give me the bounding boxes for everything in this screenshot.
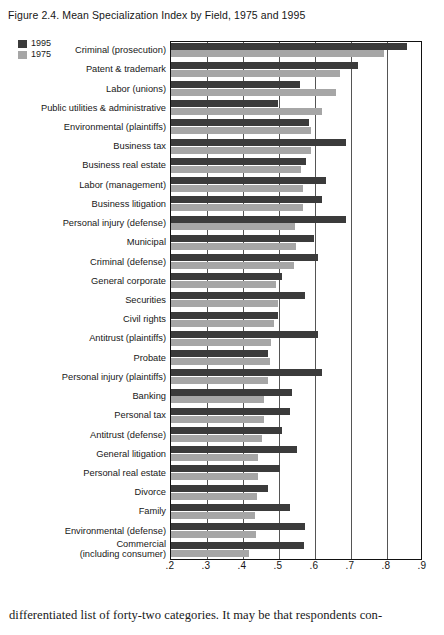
bar-1995 — [171, 446, 297, 453]
x-tick-label: .3 — [202, 560, 211, 571]
chart-row: General corporate — [0, 272, 444, 291]
body-text-paragraph: differentiated list of forty-two categor… — [9, 608, 437, 623]
x-tick-label: .9 — [418, 560, 427, 571]
chart-row: Civil rights — [0, 310, 444, 329]
chart-row: Commercial(including consumer) — [0, 541, 444, 560]
chart-row: Public utilities & administrative — [0, 99, 444, 118]
bar-1995 — [171, 369, 322, 376]
bar-1995 — [171, 196, 322, 203]
category-label: Personal tax — [0, 410, 166, 420]
category-label: Antitrust (plaintiffs) — [0, 333, 166, 343]
bar-1975 — [171, 320, 274, 327]
category-label: Probate — [0, 353, 166, 363]
x-tick-label: .6 — [310, 560, 319, 571]
chart-row: Probate — [0, 349, 444, 368]
bar-1975 — [171, 185, 303, 192]
chart-row: Personal injury (plaintiffs) — [0, 368, 444, 387]
category-label: Personal injury (plaintiffs) — [0, 372, 166, 382]
bar-1975 — [171, 300, 278, 307]
bar-1995 — [171, 485, 268, 492]
category-label: Business real estate — [0, 160, 166, 170]
chart-row: Labor (management) — [0, 176, 444, 195]
bar-1995 — [171, 389, 292, 396]
category-label: Family — [0, 506, 166, 516]
bar-1975 — [171, 435, 262, 442]
bar-1975 — [171, 223, 295, 230]
category-label: Business tax — [0, 141, 166, 151]
chart-row: Business real estate — [0, 156, 444, 175]
chart-row: Business litigation — [0, 195, 444, 214]
category-label: Labor (unions) — [0, 84, 166, 94]
category-label: Labor (management) — [0, 180, 166, 190]
bar-1995 — [171, 465, 280, 472]
category-label: Divorce — [0, 487, 166, 497]
bar-1995 — [171, 504, 290, 511]
bar-1995 — [171, 62, 358, 69]
category-label: Banking — [0, 391, 166, 401]
category-label: Personal injury (defense) — [0, 218, 166, 228]
category-label: General corporate — [0, 276, 166, 286]
category-label: Public utilities & administrative — [0, 103, 166, 113]
bar-1975 — [171, 531, 256, 538]
bar-1995 — [171, 235, 314, 242]
bar-1995 — [171, 158, 306, 165]
category-label: Criminal (defense) — [0, 257, 166, 267]
bar-1975 — [171, 108, 322, 115]
bar-1995 — [171, 523, 305, 530]
bar-1975 — [171, 281, 276, 288]
chart-row: Divorce — [0, 483, 444, 502]
bar-1995 — [171, 216, 346, 223]
chart-row: General litigation — [0, 445, 444, 464]
bar-1995 — [171, 427, 282, 434]
chart-row: Family — [0, 502, 444, 521]
bar-1995 — [171, 100, 278, 107]
chart-row: Environmental (plaintiffs) — [0, 118, 444, 137]
chart-row: Labor (unions) — [0, 79, 444, 98]
chart-row: Antitrust (defense) — [0, 425, 444, 444]
bar-1995 — [171, 331, 318, 338]
bar-1975 — [171, 204, 303, 211]
chart-row: Antitrust (plaintiffs) — [0, 329, 444, 348]
bar-1995 — [171, 350, 268, 357]
bar-1995 — [171, 81, 300, 88]
bar-1995 — [171, 542, 304, 549]
category-label: Securities — [0, 295, 166, 305]
chart-row: Business tax — [0, 137, 444, 156]
chart-row: Criminal (defense) — [0, 252, 444, 271]
category-label: Environmental (plaintiffs) — [0, 122, 166, 132]
bar-1975 — [171, 416, 264, 423]
bar-1995 — [171, 408, 290, 415]
category-label: Business litigation — [0, 199, 166, 209]
x-tick-label: .8 — [382, 560, 391, 571]
chart-row: Municipal — [0, 233, 444, 252]
bar-1975 — [171, 473, 258, 480]
bar-1995 — [171, 119, 309, 126]
bar-1975 — [171, 454, 258, 461]
bar-1975 — [171, 127, 311, 134]
bar-1995 — [171, 43, 407, 50]
chart-row: Securities — [0, 291, 444, 310]
bar-1975 — [171, 70, 340, 77]
chart-bar-rows: Criminal (prosecution)Patent & trademark… — [0, 41, 444, 560]
chart-row: Personal tax — [0, 406, 444, 425]
bar-1995 — [171, 177, 326, 184]
category-label: Criminal (prosecution) — [0, 45, 166, 55]
chart-x-axis: .2.3.4.5.6.7.8.9 — [0, 560, 444, 576]
category-label: Municipal — [0, 237, 166, 247]
chart-row: Environmental (defense) — [0, 522, 444, 541]
x-tick-label: .4 — [238, 560, 247, 571]
bar-1975 — [171, 550, 249, 557]
bar-1995 — [171, 273, 282, 280]
chart-row: Personal real estate — [0, 464, 444, 483]
bar-1975 — [171, 377, 268, 384]
category-label: Antitrust (defense) — [0, 430, 166, 440]
bar-1975 — [171, 243, 296, 250]
figure-title: Figure 2.4. Mean Specialization Index by… — [8, 9, 305, 21]
chart-row: Patent & trademark — [0, 60, 444, 79]
bar-1975 — [171, 166, 301, 173]
x-tick-label: .2 — [166, 560, 175, 571]
bar-1995 — [171, 312, 278, 319]
bar-1995 — [171, 254, 318, 261]
bar-1975 — [171, 339, 271, 346]
bar-1975 — [171, 358, 270, 365]
